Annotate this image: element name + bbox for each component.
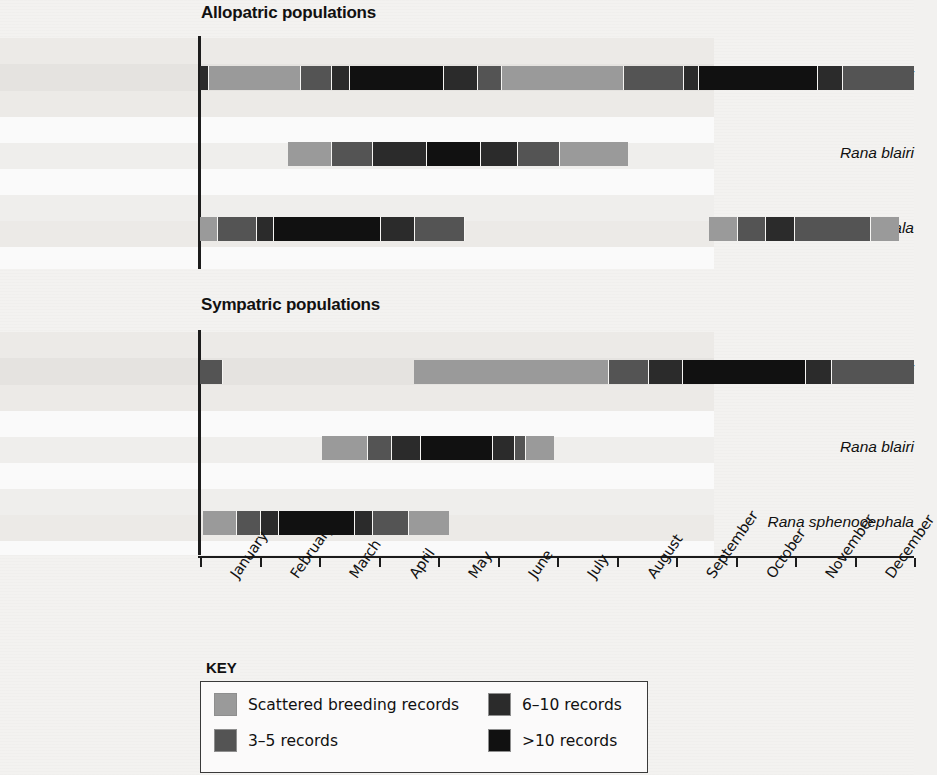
bar-segment [871, 217, 899, 241]
row-band [0, 411, 714, 437]
bar-sympatric-rana-blairi [200, 436, 914, 460]
bar-segment [414, 360, 609, 384]
key-item: Scattered breeding records [214, 693, 459, 716]
x-axis-tick [498, 558, 500, 567]
bar-segment [649, 360, 683, 384]
bar-segment [502, 66, 624, 90]
bar-segment [288, 142, 332, 166]
bar-segment [560, 142, 628, 166]
key-label: 3–5 records [248, 732, 338, 750]
bar-segment [515, 436, 526, 460]
panel-title-allopatric: Allopatric populations [201, 3, 376, 23]
bar-sympatric-rana-sphenocephala [200, 511, 914, 535]
panel-title-sympatric: Sympatric populations [201, 295, 380, 315]
bar-segment [200, 360, 223, 384]
panel-sympatric: Sympatric populations Rana berlandieri R… [0, 292, 914, 557]
bar-segment [381, 217, 415, 241]
bar-segment [806, 360, 832, 384]
row-band [0, 117, 714, 143]
bar-segment [274, 217, 381, 241]
key-swatch [488, 693, 511, 716]
key-label: >10 records [522, 732, 617, 750]
row-band [0, 541, 714, 555]
x-axis-tick [617, 558, 619, 567]
key-item: 6–10 records [488, 693, 622, 716]
bar-segment [421, 436, 492, 460]
bar-segment [843, 66, 914, 90]
panel-allopatric: Allopatric populations Rana berlandieri … [0, 0, 914, 275]
bar-segment [699, 66, 818, 90]
bar-segment [301, 66, 332, 90]
bar-segment [795, 217, 871, 241]
bar-segment [355, 511, 373, 535]
bar-segment [444, 66, 479, 90]
bar-segment [200, 66, 209, 90]
bar-segment [200, 217, 218, 241]
bar-segment [415, 217, 464, 241]
row-band [0, 385, 714, 411]
x-axis-tick [319, 558, 321, 567]
bar-segment [526, 436, 554, 460]
bar-segment [392, 436, 422, 460]
key-title: KEY [203, 659, 240, 676]
bar-segment [493, 436, 516, 460]
bar-segment [518, 142, 560, 166]
bar-segment [257, 217, 275, 241]
bar-allopatric-rana-berlandieri [200, 66, 914, 90]
x-axis-tick [200, 558, 202, 567]
bar-segment [427, 142, 481, 166]
bar-segment [481, 142, 518, 166]
key-swatch [214, 729, 237, 752]
bar-segment [373, 511, 410, 535]
bar-segment [609, 360, 649, 384]
row-band [0, 38, 714, 64]
bar-segment [350, 66, 444, 90]
bar-allopatric-rana-sphenocephala [200, 217, 914, 241]
row-band [0, 463, 714, 489]
bar-sympatric-rana-berlandieri [200, 360, 914, 384]
row-band [0, 91, 714, 117]
bar-segment [766, 217, 795, 241]
x-axis-tick [914, 558, 916, 567]
key-swatch [488, 729, 511, 752]
key-swatch [214, 693, 237, 716]
bar-segment [832, 360, 914, 384]
key-label: 6–10 records [522, 696, 622, 714]
x-axis-tick [855, 558, 857, 567]
bar-segment [322, 436, 368, 460]
bar-segment [373, 142, 428, 166]
bar-segment [409, 511, 448, 535]
row-band [0, 332, 714, 358]
bar-segment [209, 66, 301, 90]
x-axis-tick [676, 558, 678, 567]
x-axis-tick [557, 558, 559, 567]
bar-segment [218, 217, 257, 241]
bar-allopatric-rana-blairi [200, 142, 914, 166]
bar-segment [624, 66, 684, 90]
bar-segment [709, 217, 739, 241]
bar-segment [684, 66, 699, 90]
x-axis-tick [795, 558, 797, 567]
bar-segment [332, 66, 350, 90]
bar-segment [818, 66, 843, 90]
bar-segment [203, 511, 237, 535]
x-axis-tick [379, 558, 381, 567]
key-item: 3–5 records [214, 729, 338, 752]
x-axis-tick [736, 558, 738, 567]
key-label: Scattered breeding records [248, 696, 459, 714]
bar-segment [332, 142, 372, 166]
row-band [0, 247, 714, 269]
bar-segment [683, 360, 806, 384]
bar-segment [478, 66, 502, 90]
bar-segment [738, 217, 766, 241]
key-item: >10 records [488, 729, 617, 752]
x-axis-tick [438, 558, 440, 567]
x-axis-tick [260, 558, 262, 567]
bar-segment [368, 436, 392, 460]
row-band [0, 169, 714, 195]
